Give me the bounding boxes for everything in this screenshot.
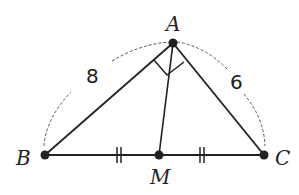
label-m: M (149, 165, 171, 189)
dashed-arc-ac (244, 94, 265, 146)
label-b: B (15, 146, 31, 170)
median-am (159, 43, 173, 155)
label-ab-length: 8 (86, 64, 99, 88)
right-angle-mark (154, 60, 184, 75)
label-a: A (164, 12, 180, 36)
point-b (41, 151, 50, 160)
dashed-arc-ab-top (112, 42, 170, 61)
triangle-diagram: A B C M 8 6 (0, 0, 299, 195)
side-ac (173, 43, 264, 155)
point-m (155, 151, 164, 160)
point-c (260, 151, 269, 160)
label-ac-length: 6 (230, 70, 243, 94)
dashed-arc-ab (44, 92, 71, 146)
label-c: C (275, 146, 290, 170)
point-a (169, 39, 178, 48)
